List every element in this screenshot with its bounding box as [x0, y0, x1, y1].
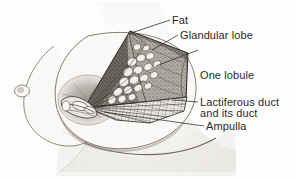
label-one-lobule-line1: One lobule	[200, 69, 257, 82]
label-ampulla: Ampulla	[206, 120, 246, 133]
breast-anatomy-figure: Fat Glandular lobe One lobule and its du…	[0, 0, 296, 180]
label-lactiferous-duct: Lactiferous duct	[200, 96, 279, 109]
label-glandular-lobe: Glandular lobe	[180, 29, 253, 42]
far-nipple	[15, 85, 30, 97]
label-fat: Fat	[172, 14, 188, 27]
